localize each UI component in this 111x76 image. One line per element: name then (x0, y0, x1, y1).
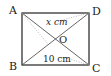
label-x-cm: x cm (46, 17, 68, 27)
vertex-label-c: C (92, 62, 100, 75)
vertex-label-d: D (92, 5, 101, 18)
center-label-o: O (59, 34, 67, 45)
vertex-label-b: B (9, 60, 17, 73)
dotted-line-a (22, 13, 48, 44)
rectangle-diagram: A D B C O x cm 10 cm (0, 0, 111, 76)
vertex-label-a: A (8, 4, 18, 17)
label-10-cm: 10 cm (43, 54, 71, 64)
